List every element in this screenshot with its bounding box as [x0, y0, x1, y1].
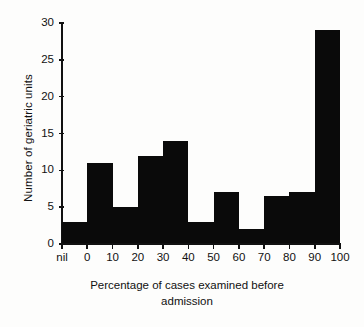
x-tick-mark: [86, 244, 88, 249]
y-tick-label: 30: [28, 17, 54, 29]
x-tick-mark: [314, 244, 316, 249]
x-axis-title: Percentage of cases examined before admi…: [32, 277, 342, 309]
x-axis-title-line-1: Percentage of cases examined before: [32, 277, 342, 293]
x-tick-mark: [339, 244, 341, 249]
x-tick-label: 100: [325, 251, 355, 263]
x-tick-mark: [61, 244, 63, 249]
histogram-bar: [138, 156, 163, 244]
x-tick-mark: [112, 244, 114, 249]
y-tick-label: 25: [28, 54, 54, 66]
y-tick-label: 20: [28, 91, 54, 103]
x-tick-mark: [162, 244, 164, 249]
histogram-bar: [62, 222, 87, 244]
histogram-bar: [239, 229, 264, 244]
x-tick-mark: [238, 244, 240, 249]
x-tick-mark: [188, 244, 190, 249]
x-axis-line: [61, 243, 341, 245]
histogram-figure: Number of geriatric units 051015202530 n…: [0, 0, 364, 327]
histogram-bar: [315, 30, 340, 244]
histogram-bar: [163, 141, 188, 244]
x-tick-mark: [213, 244, 215, 249]
y-tick-label: 15: [28, 128, 54, 140]
y-tick-label: 0: [28, 238, 54, 250]
x-tick-mark: [289, 244, 291, 249]
plot-area: [62, 23, 340, 244]
histogram-bar: [289, 192, 314, 244]
histogram-bar: [188, 222, 213, 244]
histogram-bar: [87, 163, 112, 244]
x-tick-mark: [137, 244, 139, 249]
histogram-bar: [113, 207, 138, 244]
y-tick-label: 5: [28, 201, 54, 213]
histogram-bar: [264, 196, 289, 244]
y-tick-label: 10: [28, 164, 54, 176]
histogram-bar: [214, 192, 239, 244]
x-axis-title-line-2: admission: [32, 293, 342, 309]
x-tick-mark: [263, 244, 265, 249]
